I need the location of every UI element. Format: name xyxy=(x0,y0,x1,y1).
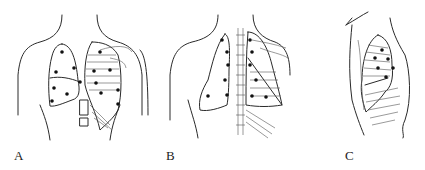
auscultation-points-b xyxy=(206,38,268,99)
diagram-canvas xyxy=(0,0,425,170)
panel-label-b: B xyxy=(166,148,175,164)
panel-b-figure xyxy=(140,15,290,138)
panel-label-c: C xyxy=(345,148,354,164)
panel-label-a: A xyxy=(14,148,23,164)
panel-c-figure xyxy=(346,12,410,138)
panel-a-figure xyxy=(18,15,142,140)
